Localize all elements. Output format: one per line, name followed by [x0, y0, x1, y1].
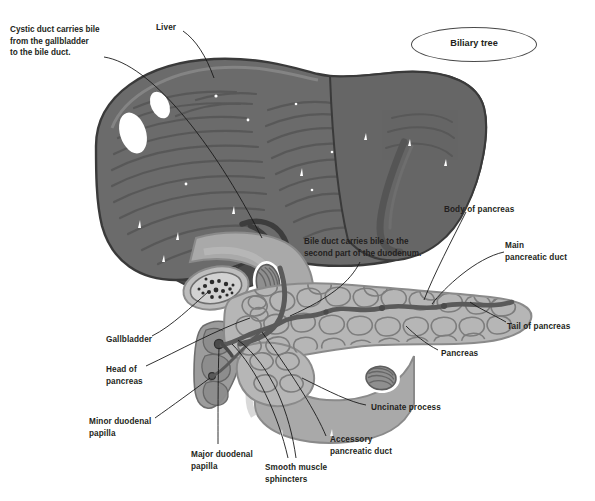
biliary-tree-diagram: Biliary tree Cystic duct carries bile fr…: [0, 0, 595, 501]
label-minor-duodenal-papilla: Minor duodenal papilla: [89, 416, 151, 439]
label-major-duodenal-papilla: Major duodenal papilla: [191, 449, 253, 472]
label-head-of-pancreas: Head of pancreas: [106, 364, 143, 387]
label-main-pancreatic-duct: Main pancreatic duct: [505, 240, 567, 263]
label-pancreas: Pancreas: [441, 348, 478, 360]
label-gallbladder: Gallbladder: [106, 334, 152, 346]
label-body-of-pancreas: Body of pancreas: [444, 204, 514, 216]
callout-cystic-duct: Cystic duct carries bile from the gallbl…: [10, 24, 100, 59]
label-smooth-muscle-sphincters: Smooth muscle sphincters: [265, 462, 327, 485]
callout-bile-duct: Bile duct carries bile to the second par…: [304, 236, 421, 259]
label-liver: Liver: [156, 22, 176, 34]
label-accessory-pancreatic-duct: Accessory pancreatic duct: [330, 434, 392, 457]
liver-right-lobe: [330, 72, 486, 260]
biliary-tree-badge: Biliary tree: [411, 27, 537, 62]
label-uncinate-process: Uncinate process: [371, 402, 441, 414]
label-tail-of-pancreas: Tail of pancreas: [507, 321, 570, 333]
biliary-tree-title: Biliary tree: [412, 38, 536, 48]
